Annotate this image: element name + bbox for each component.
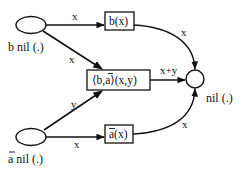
edge-label-abar-to-sync: y bbox=[71, 98, 77, 110]
abar-place-label: a nil (.) bbox=[8, 152, 43, 166]
edge-label-b-to-sync: x bbox=[69, 53, 75, 65]
edge-label-btrans-to-sink: x bbox=[181, 26, 187, 38]
sink-place-label: nil (.) bbox=[206, 91, 233, 105]
edge-label-abartrans-to-sink: x bbox=[182, 118, 188, 130]
edge-abar-to-sync bbox=[44, 91, 102, 130]
b-place-ellipse bbox=[16, 17, 46, 34]
b-place-label: b nil (.) bbox=[8, 40, 44, 54]
edge-label-sync-to-sink: x+y bbox=[160, 64, 178, 76]
abar-transition-label: a(x) bbox=[109, 128, 128, 141]
sink-place-circle bbox=[186, 70, 204, 88]
edge-label-b-to-btrans: x bbox=[72, 10, 78, 22]
sync-transition-label: ⟨b,a⟩(x,y) bbox=[92, 74, 137, 87]
abar-place-ellipse bbox=[16, 129, 46, 146]
edge-label-abar-to-abartrans: x bbox=[74, 138, 80, 150]
petri-net-diagram: b nil (.) a nil (.) nil (.) b(x) ⟨b,a⟩(x… bbox=[0, 0, 244, 170]
b-transition-label: b(x) bbox=[109, 15, 128, 28]
